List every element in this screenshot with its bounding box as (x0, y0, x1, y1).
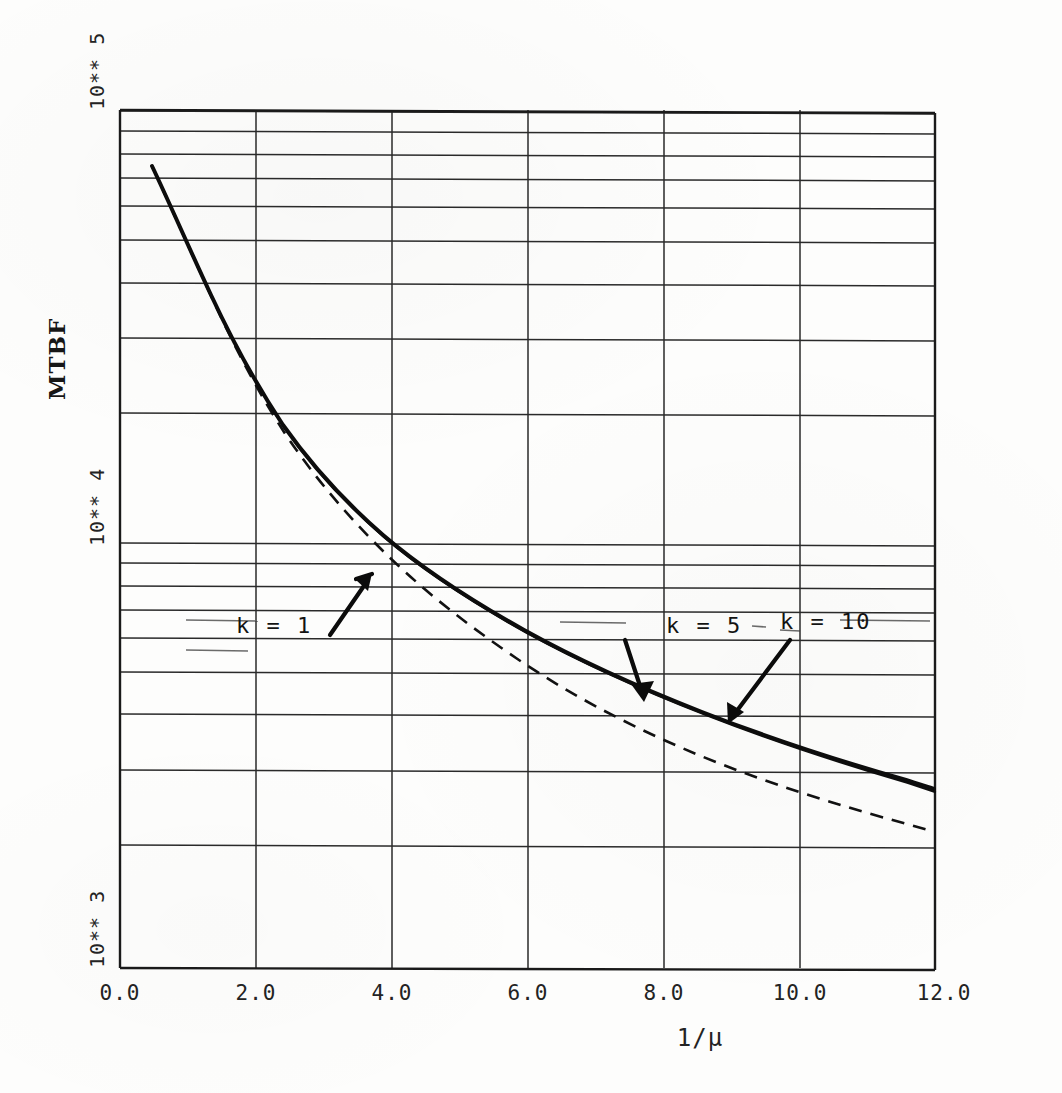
y-tick-label-1e5: 10** 5 (85, 32, 109, 110)
x-tick-label-6: 12.0 (917, 981, 972, 1005)
y-axis-title: MTBF (43, 318, 70, 400)
curve-k-1 (152, 166, 932, 831)
x-tick-label-0: 0.0 (100, 981, 141, 1005)
arrow-k-10 (727, 640, 790, 724)
x-tick-label-5: 10.0 (773, 981, 828, 1005)
annotation-k-10: k = 10 (780, 609, 871, 634)
annotation-k-1: k = 1 (236, 613, 312, 638)
arrow-k-1 (330, 573, 372, 635)
y-tick-label-1e3: 10** 3 (85, 890, 109, 968)
x-tick-label-2: 4.0 (372, 981, 413, 1005)
x-tick-label-3: 6.0 (508, 981, 549, 1005)
x-axis-title: 1/μ (677, 1024, 723, 1052)
chart-canvas: k = 1 k = 5 k = 10 10** 5 10** 4 10** 3 … (0, 0, 1062, 1093)
curve-k-5 (152, 166, 934, 789)
curve-k-10 (153, 168, 935, 792)
stray-dash (752, 626, 766, 627)
annotation-k-5: k = 5 (666, 613, 742, 638)
mtbf-vs-inverse-mu-chart: k = 1 k = 5 k = 10 10** 5 10** 4 10** 3 … (0, 0, 1062, 1093)
y-tick-label-1e4: 10** 4 (85, 468, 109, 546)
vertical-gridlines (256, 110, 800, 968)
x-tick-label-1: 2.0 (236, 981, 277, 1005)
x-tick-label-4: 8.0 (644, 981, 685, 1005)
